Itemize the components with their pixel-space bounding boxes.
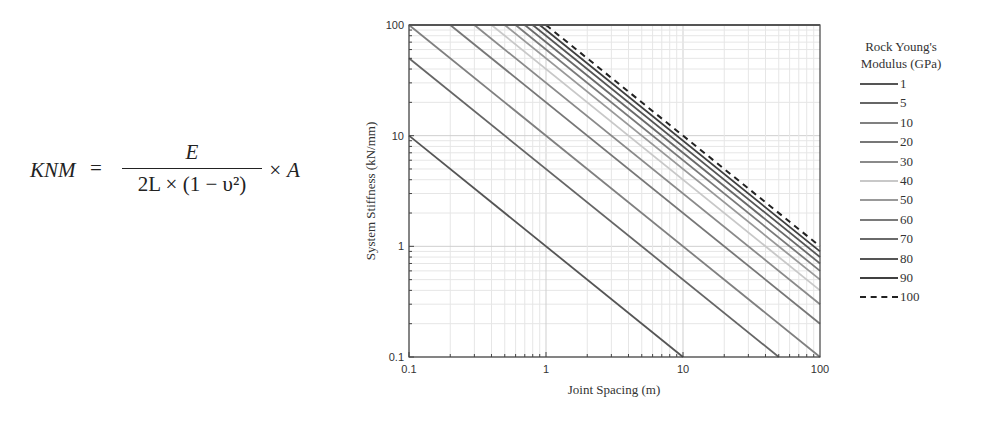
legend-swatch bbox=[860, 199, 898, 201]
chart-axes: 0.11101000.1110100 bbox=[386, 19, 830, 375]
legend-swatch bbox=[860, 141, 898, 143]
fraction-bar bbox=[122, 168, 262, 169]
legend-item-50: 50 bbox=[836, 190, 976, 209]
legend-title-line2: Modulus (GPa) bbox=[836, 55, 966, 72]
legend-label: 40 bbox=[900, 171, 913, 190]
series-line-90 bbox=[540, 25, 820, 251]
legend-swatch bbox=[860, 83, 898, 85]
legend-label: 1 bbox=[900, 74, 907, 93]
y-tick-label: 10 bbox=[392, 130, 404, 142]
formula-lhs: KNM bbox=[30, 158, 76, 183]
legend-item-30: 30 bbox=[836, 152, 976, 171]
legend-swatch bbox=[860, 238, 898, 240]
legend-item-100: 100 bbox=[836, 287, 976, 306]
legend-title-line1: Rock Young's bbox=[836, 38, 966, 55]
legend-label: 100 bbox=[900, 287, 920, 306]
legend-item-70: 70 bbox=[836, 229, 976, 248]
x-tick-label: 1 bbox=[543, 363, 549, 375]
x-tick-label: 100 bbox=[811, 363, 829, 375]
x-tick-label: 0.1 bbox=[401, 363, 416, 375]
y-tick-label: 100 bbox=[386, 19, 404, 31]
legend-label: 60 bbox=[900, 210, 913, 229]
legend-item-90: 90 bbox=[836, 268, 976, 287]
y-tick-label: 0.1 bbox=[389, 351, 404, 363]
legend-swatch bbox=[860, 122, 898, 124]
legend-item-60: 60 bbox=[836, 210, 976, 229]
legend-swatch bbox=[860, 258, 898, 260]
x-tick-label: 10 bbox=[677, 363, 689, 375]
stiffness-chart: 0.11101000.1110100 Joint Spacing (m) Sys… bbox=[340, 0, 840, 426]
legend-swatch bbox=[860, 161, 898, 163]
series-line-20 bbox=[450, 25, 820, 324]
series-line-5 bbox=[409, 58, 779, 357]
formula-numerator: E bbox=[122, 140, 262, 166]
legend-swatch bbox=[860, 180, 898, 182]
legend-label: 50 bbox=[900, 190, 913, 209]
legend-label: 10 bbox=[900, 113, 913, 132]
legend-label: 20 bbox=[900, 132, 913, 151]
legend-swatch bbox=[860, 102, 898, 104]
formula-denominator: 2L × (1 − υ²) bbox=[122, 172, 262, 197]
legend-label: 5 bbox=[900, 93, 907, 112]
legend-label: 80 bbox=[900, 249, 913, 268]
series-line-10 bbox=[409, 25, 820, 357]
legend-item-20: 20 bbox=[836, 132, 976, 151]
legend-swatch bbox=[860, 219, 898, 221]
legend-label: 30 bbox=[900, 152, 913, 171]
formula-fraction: E 2L × (1 − υ²) bbox=[122, 140, 262, 197]
legend-item-40: 40 bbox=[836, 171, 976, 190]
series-line-30 bbox=[474, 25, 820, 304]
chart-legend: Rock Young's Modulus (GPa) 1510203040506… bbox=[836, 38, 976, 307]
chart-series bbox=[409, 25, 820, 357]
formula-tail: × A bbox=[268, 158, 300, 183]
legend-swatch bbox=[860, 296, 898, 298]
legend-label: 70 bbox=[900, 229, 913, 248]
series-line-70 bbox=[525, 25, 820, 263]
y-tick-label: 1 bbox=[398, 240, 404, 252]
legend-swatch bbox=[860, 277, 898, 279]
legend-item-5: 5 bbox=[836, 93, 976, 112]
y-axis-label: System Stiffness (kN/mm) bbox=[363, 122, 378, 260]
legend-item-1: 1 bbox=[836, 74, 976, 93]
legend-label: 90 bbox=[900, 268, 913, 287]
x-axis-label: Joint Spacing (m) bbox=[568, 382, 660, 397]
formula-equals: = bbox=[90, 156, 102, 181]
legend-item-80: 80 bbox=[836, 249, 976, 268]
stiffness-formula: KNM = E 2L × (1 − υ²) × A bbox=[30, 140, 330, 200]
legend-item-10: 10 bbox=[836, 113, 976, 132]
series-line-40 bbox=[491, 25, 820, 290]
